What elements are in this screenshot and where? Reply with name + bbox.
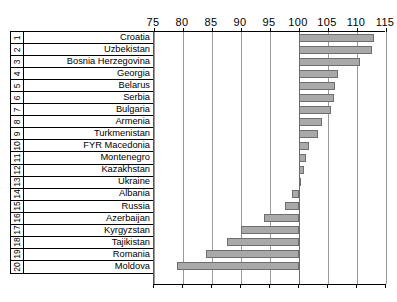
bar-row xyxy=(154,213,385,225)
bar xyxy=(299,166,304,174)
bar xyxy=(299,178,301,186)
x-axis-tick-label: 100 xyxy=(283,14,313,30)
rank-label: 5 xyxy=(13,83,22,88)
bar xyxy=(264,214,299,222)
rank-label: 15 xyxy=(13,201,22,210)
bar xyxy=(299,70,338,78)
gridline xyxy=(386,32,387,284)
table-row: 20Moldova xyxy=(11,261,153,273)
table-row: 18Tajikistan xyxy=(11,237,153,249)
rank-cell: 10 xyxy=(11,140,24,151)
rank-cell: 20 xyxy=(11,261,24,273)
bar-row xyxy=(154,177,385,189)
table-row: 4Georgia xyxy=(11,68,153,80)
country-label: FYR Macedonia xyxy=(24,140,153,151)
country-label: Kyrgyzstan xyxy=(24,225,153,236)
country-label: Belarus xyxy=(24,80,153,91)
bar xyxy=(299,130,318,138)
country-label: Romania xyxy=(24,249,153,260)
x-axis-tick-mark-bottom xyxy=(182,284,183,288)
x-axis-tick-label: 80 xyxy=(167,14,197,30)
bar-row xyxy=(154,165,385,177)
bar-row xyxy=(154,237,385,249)
x-axis-tick-mark-bottom xyxy=(327,284,328,288)
table-row: 14Albania xyxy=(11,189,153,201)
rank-label: 18 xyxy=(13,238,22,247)
x-axis-tick-mark-bottom xyxy=(153,284,154,288)
rank-cell: 2 xyxy=(11,44,24,55)
x-axis-tick-mark-bottom xyxy=(385,284,386,288)
rank-label: 16 xyxy=(13,213,22,222)
rank-label: 4 xyxy=(13,71,22,76)
table-row: 6Serbia xyxy=(11,92,153,104)
country-label: Georgia xyxy=(24,68,153,79)
rank-cell: 4 xyxy=(11,68,24,79)
rank-label: 9 xyxy=(13,132,22,137)
x-axis-tick-label: 115 xyxy=(370,14,397,30)
rank-cell: 15 xyxy=(11,201,24,212)
bar xyxy=(299,154,306,162)
rank-cell: 18 xyxy=(11,237,24,248)
rank-label: 19 xyxy=(13,250,22,259)
bar xyxy=(299,106,331,114)
rank-label: 6 xyxy=(13,95,22,100)
bar-row xyxy=(154,80,385,92)
rank-cell: 16 xyxy=(11,213,24,224)
bar xyxy=(227,238,299,246)
x-axis-tick-label: 85 xyxy=(196,14,226,30)
x-axis-tick-mark-bottom xyxy=(298,284,299,288)
country-label: Moldova xyxy=(24,261,153,273)
x-axis-tick-labels: 7580859095100105110115 xyxy=(0,14,397,30)
rank-cell: 12 xyxy=(11,165,24,176)
bar-row xyxy=(154,249,385,261)
rank-cell: 1 xyxy=(11,32,24,43)
rank-label: 1 xyxy=(13,35,22,40)
table-row: 12Kazakhstan xyxy=(11,165,153,177)
bar-row xyxy=(154,68,385,80)
rank-cell: 11 xyxy=(11,152,24,163)
country-label: Uzbekistan xyxy=(24,44,153,55)
rank-cell: 8 xyxy=(11,116,24,127)
country-label: Tajikistan xyxy=(24,237,153,248)
bar xyxy=(299,58,360,66)
bar-row xyxy=(154,128,385,140)
country-label: Albania xyxy=(24,189,153,200)
bar-row xyxy=(154,44,385,56)
bar-row xyxy=(154,189,385,201)
category-label-table: 1Croatia2Uzbekistan3Bosnia Herzegovina4G… xyxy=(10,31,153,274)
country-label: Azerbaijan xyxy=(24,213,153,224)
bar-row xyxy=(154,201,385,213)
rank-cell: 19 xyxy=(11,249,24,260)
table-row: 7Bulgaria xyxy=(11,104,153,116)
bar-row xyxy=(154,92,385,104)
rank-cell: 7 xyxy=(11,104,24,115)
bar-row xyxy=(154,104,385,116)
x-axis-tick-mark xyxy=(386,28,387,32)
bar xyxy=(299,94,334,102)
country-label: Armenia xyxy=(24,116,153,127)
rank-label: 13 xyxy=(13,177,22,186)
table-row: 11Montenegro xyxy=(11,152,153,164)
bar-row xyxy=(154,116,385,128)
rank-label: 11 xyxy=(13,154,22,163)
x-axis-tick-label: 90 xyxy=(225,14,255,30)
rank-label: 10 xyxy=(13,141,22,150)
bar xyxy=(299,46,372,54)
bar-row xyxy=(154,32,385,44)
table-row: 5Belarus xyxy=(11,80,153,92)
x-axis-tick-label: 75 xyxy=(138,14,168,30)
bar-row xyxy=(154,56,385,68)
country-label: Bulgaria xyxy=(24,104,153,115)
country-label: Russia xyxy=(24,201,153,212)
x-axis-tick-mark-bottom xyxy=(269,284,270,288)
table-row: 2Uzbekistan xyxy=(11,44,153,56)
bar xyxy=(299,142,309,150)
x-axis-tick-label: 105 xyxy=(312,14,342,30)
x-axis-tick-mark-bottom xyxy=(211,284,212,288)
x-axis-tick-label: 95 xyxy=(254,14,284,30)
rank-cell: 5 xyxy=(11,80,24,91)
rank-cell: 6 xyxy=(11,92,24,103)
rank-label: 20 xyxy=(13,262,22,271)
rank-label: 14 xyxy=(13,189,22,198)
table-row: 10FYR Macedonia xyxy=(11,140,153,152)
